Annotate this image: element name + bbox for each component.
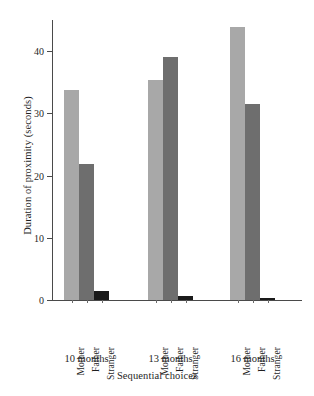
y-axis-tick-label: 20 bbox=[34, 170, 44, 181]
y-axis-title: Duration of proximity (seconds) bbox=[22, 56, 33, 276]
series-labels: MotherFatherStrangerMotherFatherStranger… bbox=[52, 303, 302, 349]
x-axis-tick-mark bbox=[268, 300, 269, 303]
x-axis-line bbox=[52, 300, 302, 301]
group-labels: 10 months13 months16 months bbox=[52, 353, 302, 369]
y-axis-line bbox=[52, 20, 53, 301]
bar-mother-10-months bbox=[64, 90, 79, 300]
y-axis-tick-mark bbox=[47, 176, 53, 177]
bar-stranger-10-months bbox=[94, 291, 109, 300]
x-axis-tick-mark bbox=[253, 300, 254, 303]
y-axis-tick-label: 10 bbox=[34, 232, 44, 243]
bar-group bbox=[230, 20, 275, 300]
bar-father-16-months bbox=[245, 104, 260, 300]
y-axis-tick-mark bbox=[47, 300, 53, 301]
bar-group bbox=[64, 20, 109, 300]
bar-mother-13-months bbox=[148, 80, 163, 300]
bar-father-10-months bbox=[79, 164, 94, 300]
x-axis-tick-mark bbox=[238, 300, 239, 303]
category-label-16-months: 16 months bbox=[230, 353, 274, 364]
x-axis-tick-mark bbox=[186, 300, 187, 303]
x-axis-tick-mark bbox=[171, 300, 172, 303]
x-axis-tick-mark bbox=[156, 300, 157, 303]
y-axis-tick-label: 30 bbox=[34, 108, 44, 119]
x-axis-title: Sequential choices bbox=[0, 370, 314, 381]
bar-father-13-months bbox=[163, 57, 178, 300]
x-axis-tick-mark bbox=[72, 300, 73, 303]
y-axis-tick-label: 40 bbox=[34, 46, 44, 57]
x-axis-tick-mark bbox=[87, 300, 88, 303]
y-axis-tick-mark bbox=[47, 238, 53, 239]
category-label-13-months: 13 months bbox=[148, 353, 192, 364]
x-axis-tick-mark bbox=[102, 300, 103, 303]
bar-chart: Duration of proximity (seconds) 01020304… bbox=[0, 0, 314, 396]
y-axis-tick-mark bbox=[47, 51, 53, 52]
y-axis-tick-mark bbox=[47, 113, 53, 114]
bar-group bbox=[148, 20, 193, 300]
bar-mother-16-months bbox=[230, 27, 245, 300]
category-label-10-months: 10 months bbox=[64, 353, 108, 364]
plot-area: 010203040 bbox=[52, 20, 302, 301]
y-axis-tick-label: 0 bbox=[39, 295, 44, 306]
